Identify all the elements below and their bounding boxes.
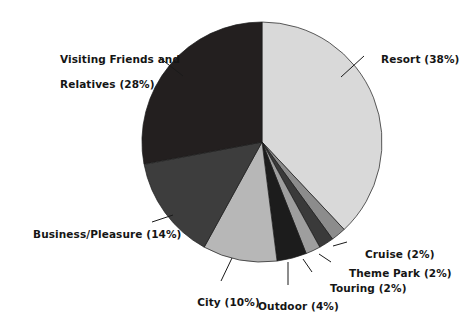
leader-line-touring: [303, 259, 312, 272]
label-business-pleasure: Business/Pleasure (14%): [18, 215, 150, 253]
label-vfr-line1: Visiting Friends and: [60, 53, 180, 65]
leader-line-cruise: [333, 242, 347, 246]
label-vfr-line2: Relatives (28%): [60, 78, 155, 90]
leader-line-theme-park: [319, 254, 331, 262]
label-cruise: Cruise (2%): [350, 235, 435, 273]
label-business-pleasure-text: Business/Pleasure (14%): [33, 228, 181, 240]
label-resort-text: Resort (38%): [381, 53, 459, 65]
slice-visiting-friends-relatives[interactable]: [142, 22, 262, 164]
label-visiting-friends-relatives: Visiting Friends and Relatives (28%): [45, 40, 157, 103]
label-cruise-text: Cruise (2%): [365, 248, 435, 260]
leader-line-city: [221, 258, 232, 281]
label-resort: Resort (38%): [366, 40, 459, 78]
